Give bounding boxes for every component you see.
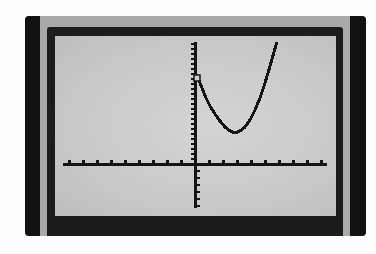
y-tick [197,198,200,200]
bezel-right-strip [350,16,366,236]
x-tick [110,160,113,163]
x-tick [208,160,211,163]
y-tick [191,63,194,65]
y-tick [191,113,194,115]
y-tick [191,83,194,85]
y-tick [191,123,194,125]
x-tick [166,160,169,163]
x-tick [96,160,99,163]
y-tick [191,88,194,90]
y-tick [191,153,194,155]
x-tick [180,160,183,163]
parabola-curve [198,42,277,133]
x-tick [320,160,323,163]
y-tick [197,191,200,193]
graph-plot [55,36,336,216]
y-tick [191,143,194,145]
y-tick [191,158,194,160]
x-tick [68,160,71,163]
x-tick [138,160,141,163]
bezel-left-strip [25,16,40,236]
y-tick [191,118,194,120]
x-tick [292,160,295,163]
y-tick [191,108,194,110]
x-tick [236,160,239,163]
y-tick [191,43,194,45]
x-tick [222,160,225,163]
x-tick [278,160,281,163]
y-tick [191,138,194,140]
y-tick [191,128,194,130]
y-tick [197,205,200,207]
lcd-screen [55,36,336,216]
y-tick [191,48,194,50]
calculator-display [0,0,376,254]
x-tick [152,160,155,163]
y-tick [191,103,194,105]
x-tick [264,160,267,163]
y-tick [191,53,194,55]
y-tick [191,133,194,135]
y-intercept-marker [194,75,200,81]
y-tick [191,58,194,60]
y-tick [191,93,194,95]
y-tick [197,177,200,179]
x-tick [82,160,85,163]
x-tick [306,160,309,163]
y-tick [191,68,194,70]
x-tick [124,160,127,163]
y-tick [191,148,194,150]
y-axis [194,42,197,208]
x-tick [250,160,253,163]
y-tick [197,170,200,172]
y-tick [191,98,194,100]
y-tick [197,184,200,186]
